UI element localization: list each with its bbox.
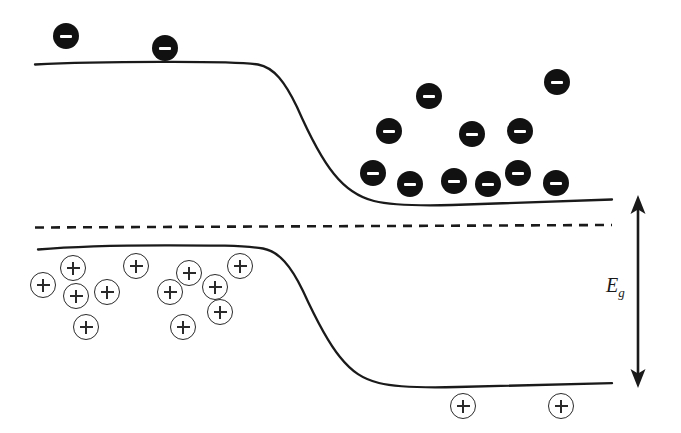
minus-icon [551,81,563,84]
minus-icon [60,35,72,38]
plus-icon [209,281,222,294]
minus-icon [159,47,171,50]
electron-marker [416,83,442,109]
bandgap-arrow [631,195,646,388]
minus-icon [448,180,460,183]
plus-icon [457,400,470,413]
electron-marker [507,118,533,144]
electron-marker [53,23,79,49]
minus-icon [404,183,416,186]
hole-marker [227,253,253,279]
bandgap-subscript: g [618,285,625,300]
minus-icon [423,95,435,98]
electron-marker [152,35,178,61]
hole-marker [157,279,183,305]
hole-marker [202,274,228,300]
hole-marker [170,314,196,340]
band-diagram-canvas [0,0,681,433]
plus-icon [555,400,568,413]
electron-marker [475,171,501,197]
minus-icon [514,130,526,133]
plus-icon [70,290,83,303]
hole-marker [60,255,86,281]
plus-icon [164,286,177,299]
minus-icon [383,130,395,133]
plus-icon [67,262,80,275]
hole-marker [176,260,202,286]
bandgap-symbol: E [606,274,618,296]
electron-marker [441,168,467,194]
hole-marker [73,314,99,340]
minus-icon [482,183,494,186]
electron-marker [544,69,570,95]
hole-marker [450,393,476,419]
bandgap-label: Eg [606,275,625,299]
hole-marker [123,253,149,279]
plus-icon [101,286,114,299]
hole-marker [207,299,233,325]
electron-marker [543,170,569,196]
minus-icon [550,182,562,185]
hole-marker [63,283,89,309]
minus-icon [367,172,379,175]
electron-marker [397,171,423,197]
plus-icon [177,321,190,334]
hole-marker [548,393,574,419]
minus-icon [466,133,478,136]
electron-marker [360,160,386,186]
plus-icon [214,306,227,319]
electron-marker [505,160,531,186]
plus-icon [130,260,143,273]
electron-marker [459,121,485,147]
fermi-level-dashed-line [35,225,612,228]
minus-icon [512,172,524,175]
band-diagram-figure: Eg [0,0,681,433]
plus-icon [37,279,50,292]
hole-marker [30,272,56,298]
hole-marker [94,279,120,305]
plus-icon [234,260,247,273]
plus-icon [80,321,93,334]
electron-marker [376,118,402,144]
plus-icon [183,267,196,280]
